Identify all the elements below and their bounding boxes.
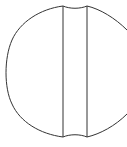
band-bottom-notch [63, 135, 87, 137]
circle-outline-right [87, 6, 127, 137]
band-top-notch [63, 6, 87, 8]
circle-outline-left [6, 6, 63, 137]
circle-band-diagram [0, 0, 127, 147]
